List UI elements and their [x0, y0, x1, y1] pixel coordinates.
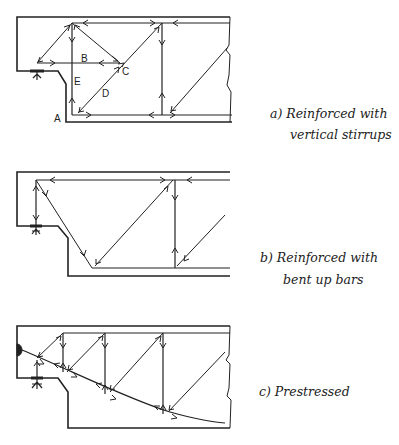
node-label-e: E — [74, 76, 81, 87]
tendon-anchor — [17, 344, 22, 356]
break-line-c — [226, 326, 231, 428]
beam-outline-b — [17, 172, 230, 276]
caption-a-line2: vertical stirrups — [290, 125, 392, 145]
caption-a-line1: a) Reinforced with — [270, 104, 387, 124]
caption-c-line1: c) Prestressed — [259, 382, 350, 402]
panel-c-prestressed — [17, 326, 231, 428]
node-label-d: D — [102, 88, 109, 99]
node-label-c: C — [122, 66, 129, 77]
panel-b-bent-up-bars — [17, 172, 230, 276]
caption-b-line2: bent up bars — [283, 270, 363, 290]
node-label-b: B — [81, 53, 88, 64]
strut-and-tie-diagram: A B C D E — [0, 0, 399, 445]
tendon-profile — [22, 350, 225, 423]
node-label-a: A — [54, 113, 61, 124]
break-line-a — [226, 17, 231, 122]
caption-b-line1: b) Reinforced with — [260, 248, 378, 268]
